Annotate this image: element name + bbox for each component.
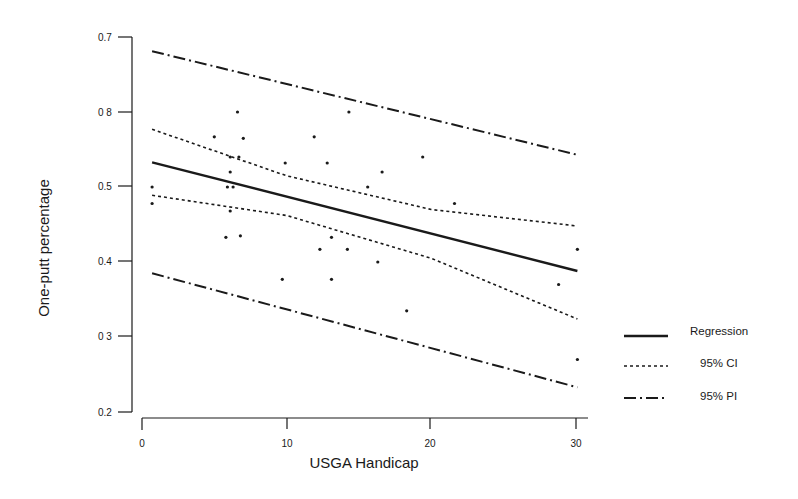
data-point	[242, 137, 245, 140]
svg-text:Regression: Regression	[690, 325, 748, 337]
data-point	[405, 309, 408, 312]
data-point	[236, 110, 239, 113]
data-point	[330, 236, 333, 239]
x-axis-title: USGA Handicap	[309, 454, 418, 471]
data-point	[453, 202, 456, 205]
data-point	[232, 185, 235, 188]
x-axis: 0 10 20 30	[139, 418, 588, 449]
data-point	[557, 283, 560, 286]
y-tick-label: 0 3	[98, 331, 112, 342]
data-point	[366, 185, 369, 188]
data-point	[326, 161, 329, 164]
data-point	[229, 170, 232, 173]
data-point	[313, 135, 316, 138]
data-points	[151, 110, 580, 361]
x-tick-label: 20	[424, 438, 436, 449]
data-point	[576, 248, 579, 251]
svg-text:95% PI: 95% PI	[700, 390, 737, 402]
data-point	[347, 110, 350, 113]
data-point	[330, 278, 333, 281]
series-lines	[152, 51, 577, 387]
series-95-pi-upper	[152, 51, 577, 155]
data-point	[237, 155, 240, 158]
data-point	[226, 185, 229, 188]
scatter-chart: 0.7 0 8 0.5 0.4 0 3 0.2 0 10 20 30 USGA …	[0, 0, 798, 499]
data-point	[229, 209, 232, 212]
data-point	[281, 278, 284, 281]
data-point	[229, 155, 232, 158]
y-axis-title: One-putt percentage	[35, 179, 52, 317]
series-95-pi-lower	[152, 273, 577, 387]
svg-text:95% CI: 95% CI	[700, 357, 738, 369]
y-tick-label: 0 8	[98, 107, 112, 118]
series-regression	[152, 162, 577, 271]
legend-item-pi: 95% PI	[624, 390, 737, 402]
data-point	[318, 248, 321, 251]
data-point	[346, 248, 349, 251]
legend: Regression 95% CI 95% PI	[624, 325, 748, 402]
x-tick-label: 10	[281, 438, 293, 449]
data-point	[224, 236, 227, 239]
y-tick-label: 0.5	[98, 181, 112, 192]
y-tick-label: 0.7	[98, 32, 112, 43]
data-point	[421, 155, 424, 158]
data-point	[381, 170, 384, 173]
x-tick-label: 0	[139, 438, 145, 449]
legend-item-regression: Regression	[624, 325, 748, 337]
data-point	[239, 234, 242, 237]
legend-item-ci: 95% CI	[624, 357, 738, 369]
data-point	[284, 161, 287, 164]
y-axis: 0.7 0 8 0.5 0.4 0 3 0.2	[98, 32, 132, 418]
y-tick-label: 0.4	[98, 256, 112, 267]
data-point	[151, 202, 154, 205]
data-point	[213, 135, 216, 138]
data-point	[576, 358, 579, 361]
x-tick-label: 30	[570, 438, 582, 449]
data-point	[151, 185, 154, 188]
series-95-ci-lower	[152, 195, 577, 319]
data-point	[376, 260, 379, 263]
y-tick-label: 0.2	[98, 407, 112, 418]
